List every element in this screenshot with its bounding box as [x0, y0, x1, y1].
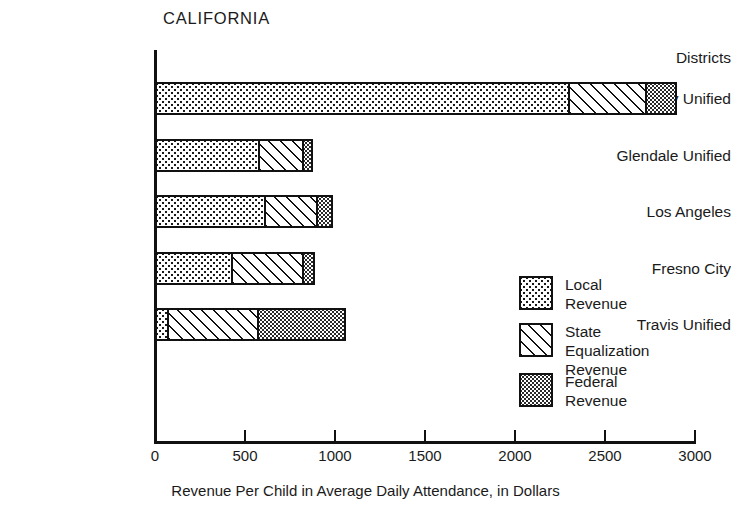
bar-segment — [303, 252, 316, 285]
bar-segment — [569, 82, 646, 115]
legend-swatch — [519, 373, 553, 407]
legend-label: Local Revenue — [565, 275, 627, 313]
x-axis-line — [154, 441, 696, 444]
legend-swatch — [519, 276, 553, 310]
bar-segment — [265, 195, 317, 228]
bar-segment — [303, 139, 314, 172]
x-tick-label: 1000 — [318, 447, 351, 464]
x-axis-title: Revenue Per Child in Average Daily Atten… — [0, 482, 731, 499]
bar-segment — [317, 195, 333, 228]
x-tick — [244, 430, 246, 441]
bar-segment — [168, 308, 258, 341]
bar-segment — [646, 82, 677, 115]
x-tick-label: 2000 — [498, 447, 531, 464]
x-tick-label: 500 — [232, 447, 257, 464]
bar-segment — [155, 82, 569, 115]
x-tick-label: 1500 — [408, 447, 441, 464]
x-tick — [604, 430, 606, 441]
legend-label: Federal Revenue — [565, 372, 627, 410]
legend-swatch — [519, 323, 553, 357]
chart-title: CALIFORNIA — [163, 9, 270, 28]
bar-segment — [258, 308, 346, 341]
bar-segment — [232, 252, 302, 285]
bar-segment — [155, 139, 259, 172]
x-tick — [694, 430, 696, 441]
bar-chart: CALIFORNIA 050010001500200025003000 Dist… — [0, 0, 731, 518]
bar-segment — [155, 308, 168, 341]
x-tick — [154, 430, 156, 441]
x-tick — [334, 430, 336, 441]
x-tick — [424, 430, 426, 441]
bar-segment — [259, 139, 302, 172]
category-label: Glendale Unified — [583, 147, 731, 165]
y-axis-title: Districts — [583, 49, 731, 67]
bar-segment — [155, 195, 265, 228]
x-tick-label: 3000 — [678, 447, 711, 464]
legend-label: State Equalization Revenue — [565, 322, 649, 379]
x-tick-label: 2500 — [588, 447, 621, 464]
x-tick — [514, 430, 516, 441]
bar-segment — [155, 252, 232, 285]
x-tick-label: 0 — [151, 447, 159, 464]
category-label: Los Angeles — [583, 203, 731, 221]
